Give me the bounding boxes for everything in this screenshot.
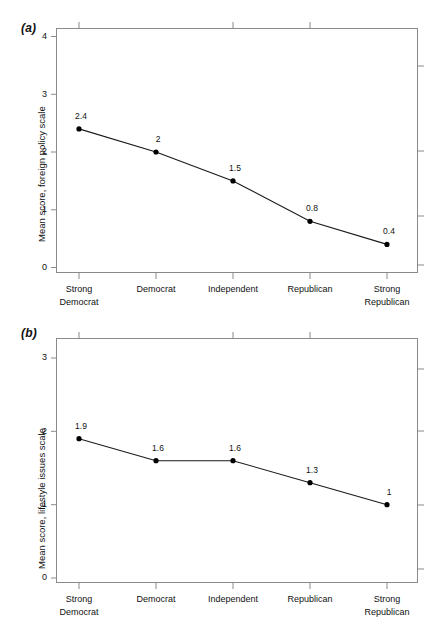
panel-a-point-label-3: 0.8 [299, 203, 325, 213]
panel-a-y-ticks [51, 37, 57, 268]
panel-b-ytick-1: 1 [33, 499, 47, 509]
panel-b-point-4 [384, 502, 389, 507]
panel-b-point-2 [230, 458, 235, 463]
panel-a-point-3 [307, 219, 312, 224]
panel-b-plot-frame [57, 339, 418, 583]
panel-a-right-ticks [418, 66, 425, 265]
panel-b-x-ticks [79, 583, 387, 590]
figure-two-panel-line-charts: (a) Mean score, foreign policy scale [0, 0, 436, 629]
panel-a-point-label-4: 0.4 [376, 226, 402, 236]
panel-a-ytick-1: 1 [33, 204, 47, 214]
panel-a-ytick-4: 4 [33, 31, 47, 41]
panel-a-point-2 [230, 178, 235, 183]
panel-a-point-label-2: 1.5 [222, 163, 248, 173]
panel-b-point-label-1: 1.6 [145, 443, 171, 453]
panel-b-right-ticks [418, 369, 425, 569]
panel-b-point-label-2: 1.6 [222, 443, 248, 453]
panel-a-point-4 [384, 242, 389, 247]
panel-b-top-ticks [79, 332, 310, 339]
panel-a-point-label-1: 2 [145, 134, 171, 144]
panel-a-top-ticks [79, 22, 310, 29]
panel-a-plot-area [0, 0, 436, 315]
panel-a-point-label-0: 2.4 [68, 111, 94, 121]
panel-a-xcat-4: Strong Republican [339, 283, 435, 308]
panel-a-ytick-2: 2 [33, 146, 47, 156]
panel-a: (a) Mean score, foreign policy scale [0, 0, 436, 315]
panel-b: (b) Mean score, lifestyle issues scale [0, 314, 436, 629]
panel-a-ytick-0: 0 [33, 262, 47, 272]
panel-b-point-0 [76, 436, 81, 441]
panel-a-point-0 [76, 126, 81, 131]
panel-b-point-1 [153, 458, 158, 463]
panel-a-data-points [76, 126, 389, 247]
panel-b-ytick-0: 0 [33, 572, 47, 582]
panel-b-y-ticks [51, 358, 57, 578]
panel-a-point-1 [153, 149, 158, 154]
panel-a-data-line [79, 129, 387, 245]
panel-b-point-3 [307, 480, 312, 485]
panel-a-plot-frame [57, 29, 418, 273]
panel-a-x-ticks [79, 273, 387, 280]
panel-b-ytick-3: 3 [33, 352, 47, 362]
panel-b-point-label-0: 1.9 [68, 421, 94, 431]
panel-b-point-label-3: 1.3 [299, 465, 325, 475]
panel-b-point-label-4: 1 [376, 487, 402, 497]
panel-a-ytick-3: 3 [33, 89, 47, 99]
panel-b-plot-area [0, 314, 436, 629]
panel-b-ytick-2: 2 [33, 426, 47, 436]
panel-b-xcat-4: Strong Republican [339, 593, 435, 618]
